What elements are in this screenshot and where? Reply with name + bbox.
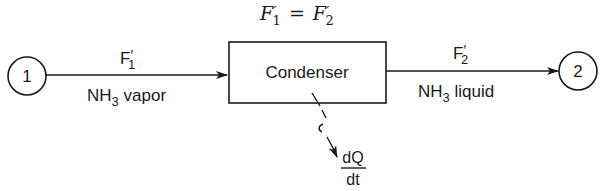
source-node-label: 1 [22,67,31,86]
heat-rate-label: dQ dt [341,149,366,188]
heat-removal-dashed-line [312,93,333,148]
outlet-phase: liquid [450,82,494,101]
inlet-phase: vapor [119,86,167,105]
inlet-species: NH [87,86,112,105]
inlet-flow-label: F′1 [120,47,135,72]
balance-equation: F′1=F′2 [259,2,334,28]
heat-denominator: dt [346,171,360,188]
condenser-unit: Condenser [229,42,386,103]
diagram-canvas: F′1=F′2 1 F′1 NH3 vapor Condenser F′2 NH… [0,0,606,191]
heat-numerator: dQ [342,149,363,166]
outlet-flow-sub: 2 [461,52,468,67]
condenser-label: Condenser [265,63,349,82]
outlet-species-label: NH3 liquid [418,82,494,105]
eq-lhs-sub: 1 [273,13,281,28]
eq-rhs-sub: 2 [325,13,333,28]
eq-operator: = [289,2,305,24]
outlet-species: NH [418,82,443,101]
sink-node-label: 2 [573,62,582,81]
outlet-species-sub: 3 [443,90,450,105]
inlet-species-label: NH3 vapor [87,86,166,109]
condenser-flow-diagram: F′1=F′2 1 F′1 NH3 vapor Condenser F′2 NH… [0,0,606,191]
inlet-flow-sub: 1 [128,57,135,72]
outlet-flow-label: F′2 [453,42,468,67]
source-node: 1 [8,57,46,95]
heat-removal-arrowhead [333,148,337,157]
inlet-species-sub: 3 [112,94,119,109]
sink-node: 2 [559,52,597,90]
